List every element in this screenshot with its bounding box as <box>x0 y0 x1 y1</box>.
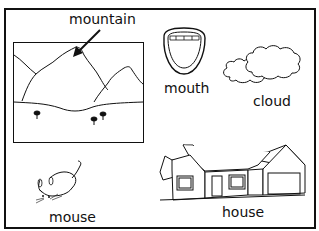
house-label: house <box>222 205 264 219</box>
house-icon <box>0 0 319 231</box>
